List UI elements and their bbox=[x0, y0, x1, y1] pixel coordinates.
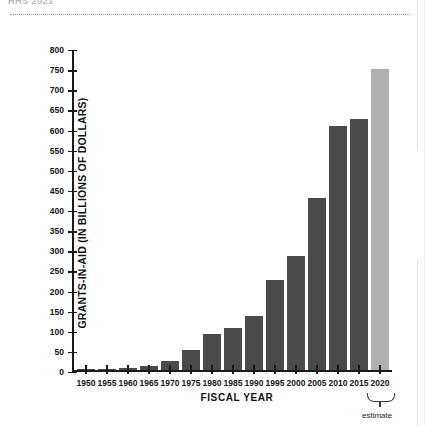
x-tick-mark bbox=[379, 365, 380, 374]
y-tick-label: 800 bbox=[50, 45, 64, 55]
x-tick-label: 2010 bbox=[329, 378, 348, 388]
bar-group[interactable]: 2010 bbox=[328, 48, 348, 370]
y-tick-label: 500 bbox=[50, 166, 64, 176]
x-tick-mark bbox=[253, 365, 254, 374]
x-tick-label: 1980 bbox=[203, 378, 222, 388]
clipped-headline: HHS 2021 bbox=[8, 0, 128, 5]
bar-group[interactable]: 2020 bbox=[370, 48, 390, 370]
x-tick-mark bbox=[274, 365, 275, 374]
bar-group[interactable]: 1960 bbox=[118, 48, 138, 370]
bar[interactable] bbox=[287, 256, 305, 371]
bar-group[interactable]: 1955 bbox=[97, 48, 117, 370]
x-tick-mark bbox=[211, 365, 212, 374]
x-tick-label: 1990 bbox=[245, 378, 264, 388]
estimate-label: estimate bbox=[362, 411, 392, 420]
x-tick-mark bbox=[358, 365, 359, 374]
x-tick-label: 2000 bbox=[287, 378, 306, 388]
y-tick-label: 350 bbox=[50, 226, 64, 236]
y-tick-label: 150 bbox=[50, 307, 64, 317]
bar-group[interactable]: 2005 bbox=[307, 48, 327, 370]
dotted-divider bbox=[10, 14, 410, 16]
bar[interactable] bbox=[329, 126, 347, 371]
x-tick-label: 1985 bbox=[224, 378, 243, 388]
y-tick-label: 0 bbox=[59, 367, 64, 377]
y-tick-label: 300 bbox=[50, 246, 64, 256]
bar-group[interactable]: 1970 bbox=[160, 48, 180, 370]
y-tick-label: 450 bbox=[50, 186, 64, 196]
y-tick-label: 400 bbox=[50, 206, 64, 216]
bar-group[interactable]: 1980 bbox=[202, 48, 222, 370]
bar[interactable] bbox=[308, 198, 326, 370]
bar-group[interactable]: 1950 bbox=[76, 48, 96, 370]
bar-group[interactable]: 1985 bbox=[223, 48, 243, 370]
y-tick-label: 50 bbox=[55, 347, 64, 357]
x-tick-label: 1975 bbox=[182, 378, 201, 388]
bar[interactable] bbox=[266, 280, 284, 371]
chart-card: GRANTS-IN-AID (IN BILLIONS OF DOLLARS) 0… bbox=[10, 20, 400, 406]
y-tick-label: 650 bbox=[50, 105, 64, 115]
x-tick-label: 1950 bbox=[77, 378, 96, 388]
bar[interactable] bbox=[245, 316, 263, 370]
x-tick-mark bbox=[85, 365, 86, 374]
bar[interactable] bbox=[224, 328, 242, 371]
x-tick-mark bbox=[127, 365, 128, 374]
x-tick-label: 1955 bbox=[98, 378, 117, 388]
x-tick-label: 2020 bbox=[371, 378, 390, 388]
bar[interactable] bbox=[350, 119, 368, 370]
estimate-brace-stem bbox=[379, 402, 380, 407]
y-tick-label: 600 bbox=[50, 126, 64, 136]
bar-estimate[interactable] bbox=[371, 69, 389, 371]
bar-group[interactable]: 2015 bbox=[349, 48, 369, 370]
chart-page: HHS 2021 GRANTS-IN-AID (IN BILLIONS OF D… bbox=[0, 0, 425, 426]
x-tick-label: 1965 bbox=[140, 378, 159, 388]
plot-area: 0501001502002503003504004505005506006507… bbox=[72, 50, 402, 372]
x-tick-mark bbox=[190, 365, 191, 374]
x-tick-mark bbox=[106, 365, 107, 374]
y-tick-mark bbox=[68, 372, 77, 373]
y-tick-label: 750 bbox=[50, 65, 64, 75]
bar-group[interactable]: 1965 bbox=[139, 48, 159, 370]
x-tick-mark bbox=[337, 365, 338, 374]
x-axis-title: FISCAL YEAR bbox=[72, 392, 402, 403]
x-tick-label: 1995 bbox=[266, 378, 285, 388]
x-tick-mark bbox=[148, 365, 149, 374]
y-tick-label: 700 bbox=[50, 85, 64, 95]
y-tick-label: 250 bbox=[50, 266, 64, 276]
y-tick-label: 100 bbox=[50, 327, 64, 337]
x-tick-mark bbox=[169, 365, 170, 374]
x-tick-mark bbox=[316, 365, 317, 374]
x-tick-mark bbox=[295, 365, 296, 374]
bar-group[interactable]: 1990 bbox=[244, 48, 264, 370]
x-tick-label: 1960 bbox=[119, 378, 138, 388]
bar-group[interactable]: 1995 bbox=[265, 48, 285, 370]
y-tick-label: 550 bbox=[50, 146, 64, 156]
x-tick-label: 1970 bbox=[161, 378, 180, 388]
bar-group[interactable]: 1975 bbox=[181, 48, 201, 370]
y-tick-label: 200 bbox=[50, 287, 64, 297]
bar-group[interactable]: 2000 bbox=[286, 48, 306, 370]
x-tick-label: 2005 bbox=[308, 378, 327, 388]
page-edge-notch bbox=[416, 150, 418, 260]
x-tick-mark bbox=[232, 365, 233, 374]
bar-series: 1950195519601965197019751980198519901995… bbox=[76, 48, 392, 370]
x-tick-label: 2015 bbox=[350, 378, 369, 388]
